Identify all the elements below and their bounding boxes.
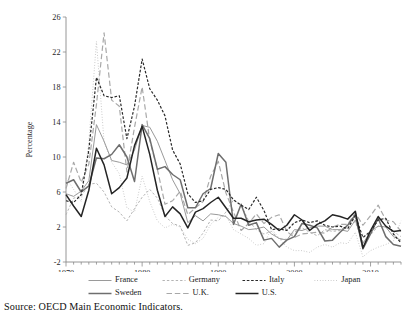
y-tick-label: 22 — [52, 48, 60, 57]
legend-line-swatch — [162, 276, 186, 285]
axis-lines — [66, 17, 401, 262]
x-tick-label: 1980 — [134, 269, 150, 272]
y-tick-label: 26 — [52, 13, 60, 22]
legend-item-france[interactable]: France — [88, 276, 138, 285]
legend-item-label: U.S. — [262, 289, 277, 297]
x-tick-label: 1970 — [58, 269, 74, 272]
legend-item-label: U.K. — [193, 289, 209, 297]
y-tick-label: 14 — [52, 118, 60, 127]
legend-line-swatch — [235, 289, 259, 298]
legend-item-label: Sweden — [115, 289, 142, 297]
figure-inflation-chart: -226101418222619701980199020002010Percen… — [0, 0, 415, 320]
line-chart-svg: -226101418222619701980199020002010Percen… — [0, 0, 415, 272]
x-tick-label: 2010 — [362, 269, 378, 272]
legend-item-sweden[interactable]: Sweden — [88, 289, 142, 298]
y-axis-title: Percentage — [25, 121, 34, 157]
source-note: Source: OECD Main Economic Indicators. — [4, 301, 183, 312]
legend-row-secondary: SwedenU.K.U.S. — [0, 287, 415, 300]
legend-item-japan[interactable]: Japan — [314, 276, 360, 285]
legend-item-italy[interactable]: Italy — [242, 276, 284, 285]
series-line-france — [66, 125, 401, 244]
legend-item-u-k[interactable]: U.K. — [166, 289, 209, 298]
y-tick-label: 18 — [52, 83, 60, 92]
series-line-u-k — [66, 33, 401, 238]
legend-row-primary: FranceGermanyItalyJapan — [0, 274, 415, 287]
y-tick-label: 10 — [52, 153, 60, 162]
legend-item-germany[interactable]: Germany — [162, 276, 220, 285]
series-line-germany — [66, 183, 401, 245]
chart-plot-area: -226101418222619701980199020002010Percen… — [0, 0, 415, 272]
legend-line-swatch — [88, 289, 112, 298]
legend-item-label: Japan — [341, 276, 360, 284]
legend-item-label: Italy — [269, 276, 284, 284]
legend-line-swatch — [242, 276, 266, 285]
y-tick-label: -2 — [54, 258, 61, 267]
y-tick-label: 2 — [56, 223, 60, 232]
legend-item-u-s[interactable]: U.S. — [235, 289, 277, 298]
series-line-sweden — [66, 125, 401, 249]
x-tick-label: 1990 — [210, 269, 226, 272]
legend-line-swatch — [166, 289, 190, 298]
legend-line-swatch — [314, 276, 338, 285]
x-tick-label: 2000 — [286, 269, 302, 272]
y-tick-label: 6 — [56, 188, 60, 197]
legend-item-label: Germany — [189, 276, 220, 284]
legend-line-swatch — [88, 276, 112, 285]
legend-item-label: France — [115, 276, 138, 284]
chart-legend: FranceGermanyItalyJapan SwedenU.K.U.S. — [0, 274, 415, 300]
